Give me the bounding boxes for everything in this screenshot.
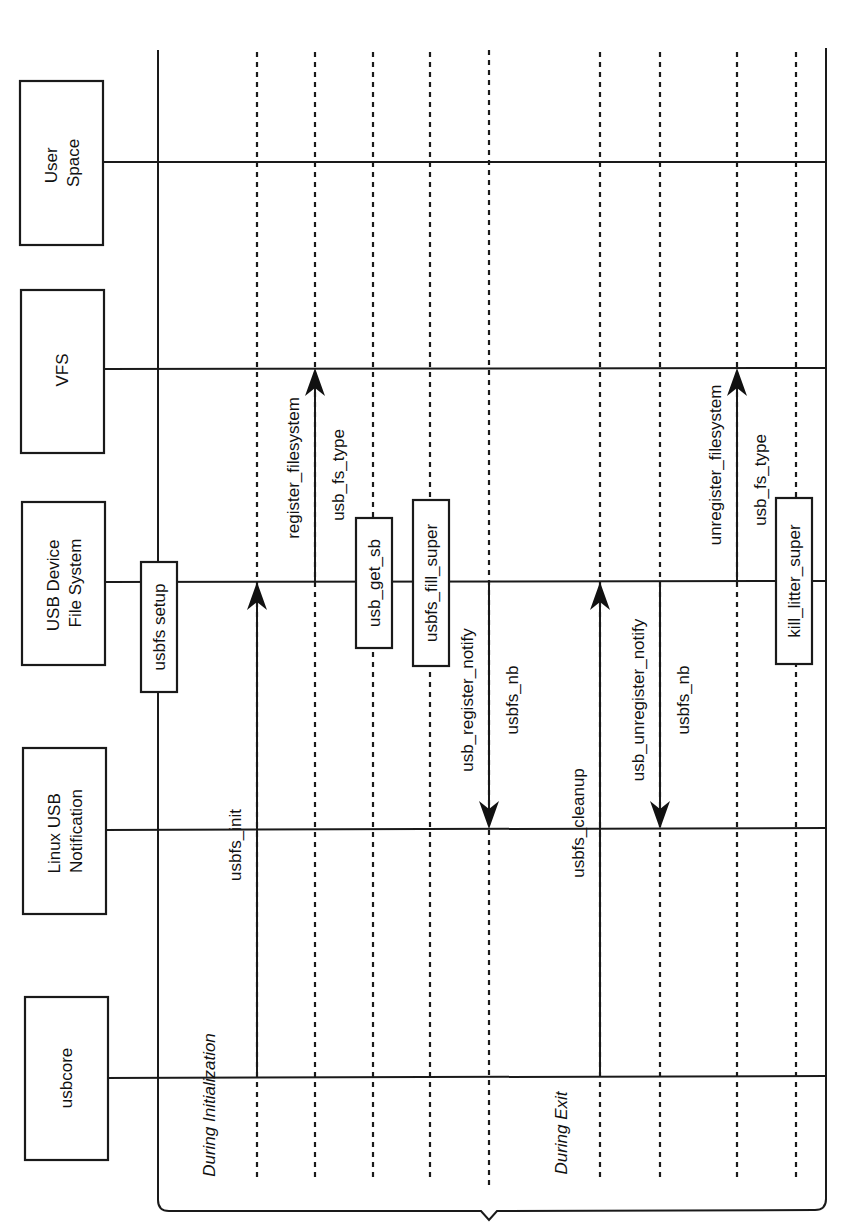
activation-label: usbfs setup <box>150 584 169 671</box>
time-grid <box>158 48 826 1190</box>
activation-usbfs-fill-super: usbfs_fill_super <box>413 500 449 666</box>
message-sublabel: usb_fs_type <box>329 429 348 521</box>
lifeline-notification <box>103 828 826 830</box>
activation-kill-litter-super: kill_litter_super <box>776 498 812 664</box>
message-sublabel: usb_fs_type <box>751 434 770 526</box>
activation-usb-get-sb: usb_get_sb <box>356 518 392 648</box>
actor-label: File System <box>66 539 85 628</box>
actor-label: Space <box>64 139 83 187</box>
actor-usbcore: usbcore <box>25 997 108 1160</box>
message-label: usb_register_notify <box>458 628 477 772</box>
actor-label: Linux USB <box>45 793 64 873</box>
actor-label: usbcore <box>57 1048 76 1108</box>
message-label: register_filesystem <box>284 397 303 539</box>
actor-usb-device-fs: USB Device File System <box>22 502 105 665</box>
message-label: usbfs_init <box>226 809 245 881</box>
actor-label: Notification <box>67 789 86 873</box>
phase-label-initialization: During Initialization <box>200 1033 219 1177</box>
activation-label: usb_get_sb <box>365 539 384 627</box>
activation-usbfs-setup: usbfs setup <box>141 562 177 692</box>
lifeline-vfs <box>103 368 826 369</box>
message-label: usbfs_cleanup <box>569 768 588 878</box>
actor-label: User <box>42 147 61 183</box>
message-unregister-filesystem: unregister_filesystem usb_fs_type <box>706 368 770 582</box>
message-label: unregister_filesystem <box>706 385 725 546</box>
activation-label: usbfs_fill_super <box>422 524 441 642</box>
actor-vfs: VFS <box>21 290 104 453</box>
actor-user-space: User Space <box>20 81 103 245</box>
bracket-brace <box>158 1165 826 1220</box>
actor-label: USB Device <box>44 540 63 632</box>
sequence-diagram: User Space VFS USB Device File System Li… <box>0 0 856 1226</box>
message-usb-register-notify: usb_register_notify usbfs_nb <box>458 582 522 829</box>
activation-label: kill_litter_super <box>785 524 804 638</box>
message-label: usb_unregister_notify <box>629 618 648 781</box>
phase-label-exit: During Exit <box>552 1090 571 1174</box>
message-register-filesystem: register_filesystem usb_fs_type <box>284 368 348 582</box>
actor-linux-usb-notification: Linux USB Notification <box>23 748 106 914</box>
lifelines <box>103 162 826 1078</box>
message-sublabel: usbfs_nb <box>503 666 522 735</box>
actor-label: VFS <box>53 353 72 386</box>
message-usb-unregister-notify: usb_unregister_notify usbfs_nb <box>629 582 693 829</box>
lifeline-usbfs <box>103 581 826 582</box>
message-sublabel: usbfs_nb <box>674 666 693 735</box>
